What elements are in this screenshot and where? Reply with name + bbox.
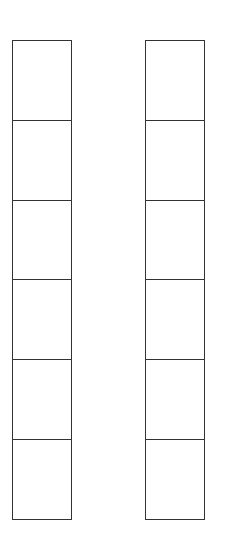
right-cell-6: [146, 440, 204, 520]
left-column: [12, 40, 72, 520]
left-cell-5: [13, 360, 71, 440]
right-cell-1: [146, 41, 204, 121]
right-cell-2: [146, 121, 204, 201]
right-column: [145, 40, 205, 520]
right-cell-4: [146, 280, 204, 360]
right-cell-3: [146, 201, 204, 281]
left-cell-2: [13, 121, 71, 201]
left-cell-3: [13, 201, 71, 281]
left-cell-1: [13, 41, 71, 121]
left-cell-6: [13, 440, 71, 520]
left-cell-4: [13, 280, 71, 360]
right-cell-5: [146, 360, 204, 440]
